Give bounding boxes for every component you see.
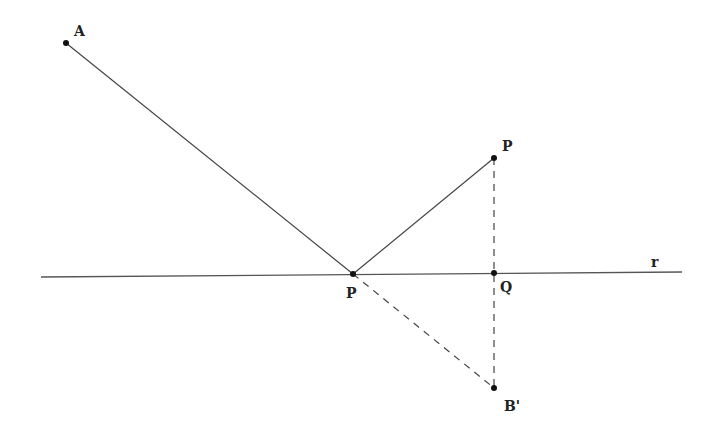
point-B-prime <box>491 385 497 391</box>
segment-A-P <box>66 43 353 274</box>
label-P-upper: P <box>502 138 513 154</box>
label-P-on-r: P <box>346 285 357 301</box>
point-A <box>63 40 69 46</box>
point-Q <box>491 270 497 276</box>
reflection-diagram: A P P Q B' r <box>0 0 718 436</box>
segment-P-P2 <box>353 158 494 274</box>
label-Q: Q <box>500 279 512 295</box>
segment-P-Bprime-dashed <box>353 274 494 388</box>
point-P-upper <box>491 155 497 161</box>
line-r <box>41 272 682 277</box>
point-P-on-r <box>350 271 356 277</box>
label-r: r <box>651 254 659 270</box>
label-A: A <box>73 23 86 39</box>
label-B-prime: B' <box>504 398 520 414</box>
